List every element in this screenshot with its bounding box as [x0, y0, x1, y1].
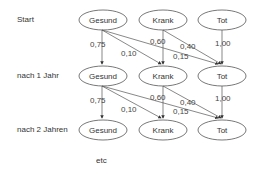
node-start-gesund: Gesund: [79, 10, 127, 30]
node-start-krank: Krank: [139, 10, 187, 30]
svg-text:0,75: 0,75: [90, 40, 106, 49]
svg-text:Tot: Tot: [217, 16, 228, 25]
svg-text:Krank: Krank: [153, 16, 175, 25]
svg-text:0,60: 0,60: [150, 93, 166, 102]
node-year1-krank: Krank: [139, 66, 187, 86]
node-year1-tot: Tot: [198, 66, 246, 86]
node-year1-gesund: Gesund: [79, 66, 127, 86]
svg-text:0,60: 0,60: [150, 37, 166, 46]
node-year2-tot: Tot: [198, 120, 246, 140]
stage-label-start: Start: [17, 15, 34, 24]
svg-text:0,10: 0,10: [121, 105, 137, 114]
markov-diagram: Gesund Krank Tot Gesund Krank Tot Gesund…: [0, 0, 256, 169]
svg-text:0,75: 0,75: [90, 96, 106, 105]
node-year2-krank: Krank: [139, 120, 187, 140]
svg-text:Gesund: Gesund: [89, 16, 117, 25]
svg-text:Gesund: Gesund: [89, 126, 117, 135]
svg-text:0,15: 0,15: [173, 107, 189, 116]
etc-label: etc: [96, 156, 107, 165]
svg-text:Tot: Tot: [217, 72, 228, 81]
probabilities-year1-to-year2: 0,75 0,10 0,60 0,40 0,15 1,00: [90, 93, 231, 116]
stage-label-year1: nach 1 Jahr: [17, 71, 59, 80]
svg-text:0,10: 0,10: [121, 49, 137, 58]
node-start-tot: Tot: [198, 10, 246, 30]
edges-start-to-year1: [102, 30, 222, 64]
stage-label-year2: nach 2 Jahren: [17, 125, 68, 134]
svg-text:Krank: Krank: [153, 126, 175, 135]
svg-text:0,40: 0,40: [180, 98, 196, 107]
edges-year1-to-year2: [102, 86, 222, 118]
svg-text:0,40: 0,40: [180, 42, 196, 51]
svg-text:Krank: Krank: [153, 72, 175, 81]
svg-text:1,00: 1,00: [215, 39, 231, 48]
svg-text:Tot: Tot: [217, 126, 228, 135]
svg-text:0,15: 0,15: [173, 52, 189, 61]
svg-text:1,00: 1,00: [215, 94, 231, 103]
node-year2-gesund: Gesund: [79, 120, 127, 140]
svg-text:Gesund: Gesund: [89, 72, 117, 81]
